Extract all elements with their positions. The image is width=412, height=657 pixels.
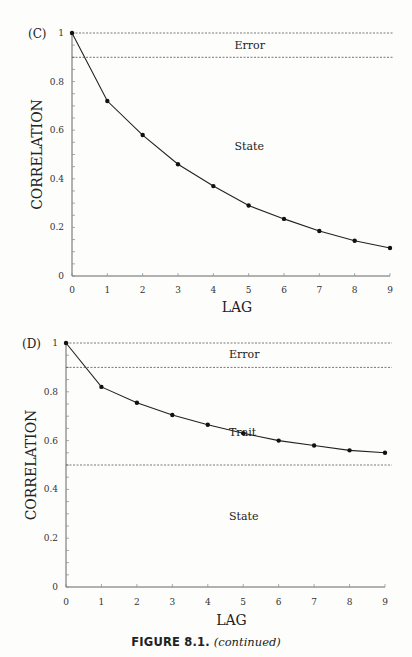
y-tick-label: 0.6 bbox=[50, 125, 65, 135]
data-point bbox=[170, 413, 174, 417]
y-axis-title: CORRELATION bbox=[29, 99, 45, 210]
x-tick-label: 7 bbox=[316, 285, 322, 295]
x-tick-label: 6 bbox=[281, 285, 287, 295]
data-point bbox=[388, 246, 392, 250]
y-axis-title: CORRELATION bbox=[23, 410, 39, 521]
y-tick-label: 0.6 bbox=[44, 436, 59, 446]
x-tick-label: 5 bbox=[240, 597, 246, 607]
x-tick-label: 8 bbox=[347, 597, 353, 607]
region-label-error: Error bbox=[229, 348, 260, 361]
data-point bbox=[282, 217, 286, 221]
data-point bbox=[312, 443, 316, 447]
x-axis-title: LAG bbox=[222, 299, 253, 315]
y-tick-label: 0.4 bbox=[44, 484, 59, 494]
y-tick-label: 0.8 bbox=[50, 77, 65, 87]
y-tick-label: 0.2 bbox=[44, 533, 58, 543]
y-tick-label: 0.4 bbox=[50, 174, 65, 184]
y-tick-label: 0 bbox=[58, 271, 64, 281]
continued-text: (continued) bbox=[214, 635, 281, 649]
x-axis-title: LAG bbox=[216, 612, 247, 628]
x-tick-label: 1 bbox=[104, 285, 110, 295]
data-point bbox=[105, 99, 109, 103]
region-label-error: Error bbox=[235, 39, 266, 52]
series-line bbox=[72, 33, 390, 248]
x-tick-label: 9 bbox=[382, 597, 388, 607]
figure-label: FIGURE 8.1. bbox=[131, 635, 210, 649]
data-point bbox=[347, 448, 351, 452]
data-point bbox=[176, 162, 180, 166]
data-point bbox=[276, 438, 280, 442]
x-tick-label: 0 bbox=[63, 597, 69, 607]
x-tick-label: 2 bbox=[134, 597, 140, 607]
figure-canvas: (C)00.20.40.60.810123456789LAGCORRELATIO… bbox=[0, 0, 412, 657]
chart-panel-d: (D)00.20.40.60.810123456789LAGCORRELATIO… bbox=[22, 337, 392, 628]
data-point bbox=[70, 31, 74, 35]
data-point bbox=[352, 239, 356, 243]
y-tick-label: 0.2 bbox=[50, 222, 64, 232]
x-tick-label: 3 bbox=[175, 285, 181, 295]
data-point bbox=[140, 133, 144, 137]
figure-caption: FIGURE 8.1. (continued) bbox=[0, 634, 412, 649]
region-label-state: State bbox=[229, 510, 258, 523]
data-point bbox=[206, 423, 210, 427]
data-point bbox=[383, 451, 387, 455]
data-point bbox=[241, 431, 245, 435]
panel-label: (C) bbox=[28, 27, 47, 41]
data-point bbox=[246, 203, 250, 207]
data-point bbox=[64, 341, 68, 345]
x-tick-label: 7 bbox=[311, 597, 317, 607]
x-tick-label: 5 bbox=[246, 285, 252, 295]
x-tick-label: 4 bbox=[210, 285, 216, 295]
y-tick-label: 0 bbox=[52, 582, 58, 592]
x-tick-label: 8 bbox=[352, 285, 358, 295]
data-point bbox=[317, 229, 321, 233]
x-tick-label: 2 bbox=[140, 285, 146, 295]
x-tick-label: 4 bbox=[205, 597, 211, 607]
x-tick-label: 3 bbox=[169, 597, 175, 607]
series-line bbox=[66, 343, 385, 453]
x-tick-label: 1 bbox=[99, 597, 105, 607]
x-tick-label: 9 bbox=[387, 285, 393, 295]
x-tick-label: 0 bbox=[69, 285, 75, 295]
y-tick-label: 1 bbox=[58, 28, 64, 38]
chart-panel-c: (C)00.20.40.60.810123456789LAGCORRELATIO… bbox=[28, 27, 393, 315]
panel-label: (D) bbox=[22, 337, 41, 351]
y-tick-label: 0.8 bbox=[44, 387, 59, 397]
y-tick-label: 1 bbox=[52, 338, 58, 348]
data-point bbox=[211, 184, 215, 188]
x-tick-label: 6 bbox=[276, 597, 282, 607]
data-point bbox=[135, 401, 139, 405]
region-label-state: State bbox=[235, 140, 264, 153]
data-point bbox=[99, 385, 103, 389]
